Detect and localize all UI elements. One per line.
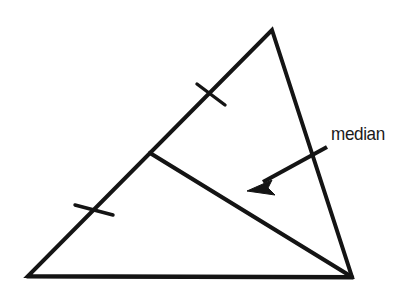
triangle-outline <box>28 30 352 277</box>
arrow-head <box>247 180 275 195</box>
triangle-base-edge <box>28 277 352 278</box>
median-label: median <box>331 124 385 143</box>
geometry-figure: median <box>0 0 408 301</box>
median-line <box>150 153 352 277</box>
triangle-median-diagram <box>0 0 408 301</box>
median-pointer-arrow-icon <box>247 147 327 195</box>
congruence-tick-lower-icon <box>75 205 113 215</box>
